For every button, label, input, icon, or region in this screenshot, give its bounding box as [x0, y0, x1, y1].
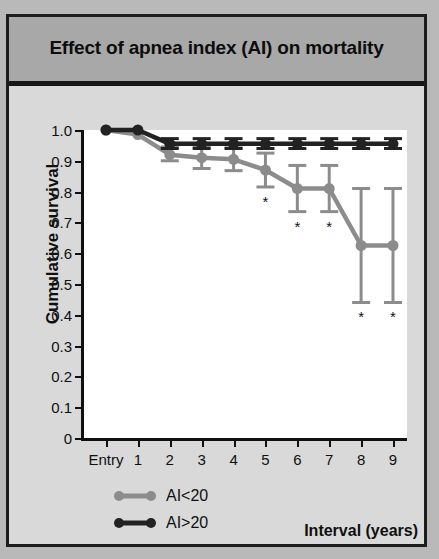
y-axis-tick-label: 0.4: [51, 306, 72, 323]
y-axis-tick-label: 0.7: [51, 214, 72, 231]
significance-marker: *: [390, 309, 396, 324]
legend-item: AI<20: [113, 487, 208, 505]
x-axis-tick-label: Entry: [88, 451, 123, 468]
x-axis-tick-label: 2: [166, 451, 174, 468]
x-axis-tick-label: 4: [229, 451, 237, 468]
significance-marker: *: [294, 218, 300, 233]
y-axis-tick: [75, 346, 84, 348]
x-axis-tick: [393, 438, 395, 447]
plot-box: 00.10.20.30.40.50.60.70.80.91.0Entry1234…: [81, 130, 407, 441]
y-axis-tick-label: 0.3: [51, 337, 72, 354]
y-axis-tick-label: 0.5: [51, 276, 72, 293]
legend-label: AI>20: [166, 514, 208, 532]
x-axis-tick: [329, 438, 331, 447]
figure-panel: Effect of apnea index (AI) on mortality …: [6, 14, 427, 547]
x-axis-tick: [106, 438, 108, 447]
y-axis-tick: [75, 161, 84, 163]
y-axis-tick-label: 0.2: [51, 368, 72, 385]
y-axis-tick-label: 0.9: [51, 152, 72, 169]
y-axis-tick: [75, 407, 84, 409]
title-band: Effect of apnea index (AI) on mortality: [9, 17, 424, 81]
legend: AI<20AI>20: [9, 487, 424, 545]
x-axis-tick: [170, 438, 172, 447]
figure-title: Effect of apnea index (AI) on mortality: [9, 37, 424, 59]
x-axis-tick: [265, 438, 267, 447]
y-axis-tick-label: 0: [64, 430, 72, 447]
significance-marker: *: [358, 309, 364, 324]
y-axis-tick: [75, 376, 84, 378]
x-axis-tick: [202, 438, 204, 447]
legend-label: AI<20: [166, 487, 208, 505]
y-axis-tick-label: 1.0: [51, 122, 72, 139]
series-layer: [84, 130, 407, 438]
y-axis-tick: [75, 130, 84, 132]
y-axis-tick-label: 0.1: [51, 399, 72, 416]
x-axis-tick: [138, 438, 140, 447]
y-axis-tick-label: 0.6: [51, 245, 72, 262]
y-axis-tick: [75, 253, 84, 255]
chart-area: Cumulative survival 00.10.20.30.40.50.60…: [9, 86, 424, 480]
legend-swatch: [113, 488, 157, 504]
x-axis-tick-label: 1: [134, 451, 142, 468]
x-axis-tick: [361, 438, 363, 447]
x-axis-tick-label: 3: [197, 451, 205, 468]
y-axis-tick-label: 0.8: [51, 183, 72, 200]
y-axis-tick: [75, 192, 84, 194]
plot-inner: 00.10.20.30.40.50.60.70.80.91.0Entry1234…: [84, 130, 407, 438]
y-axis-tick: [75, 438, 84, 440]
series-AI20: [101, 125, 403, 303]
x-axis-tick-label: 7: [325, 451, 333, 468]
y-axis-tick: [75, 284, 84, 286]
x-axis-tick-label: 9: [389, 451, 397, 468]
legend-swatch: [113, 515, 157, 531]
x-axis-tick: [297, 438, 299, 447]
y-axis-tick: [75, 222, 84, 224]
significance-marker: *: [326, 218, 332, 233]
x-axis-tick-label: 5: [261, 451, 269, 468]
legend-item: AI>20: [113, 514, 208, 532]
significance-marker: *: [263, 193, 269, 208]
y-axis-tick: [75, 315, 84, 317]
x-axis-tick-label: 8: [357, 451, 365, 468]
x-axis-tick-label: 6: [293, 451, 301, 468]
x-axis-tick: [234, 438, 236, 447]
